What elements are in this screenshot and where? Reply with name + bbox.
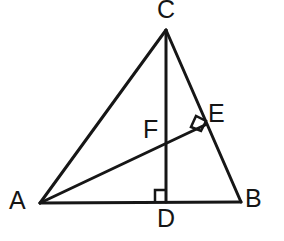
triangle-figure: [0, 0, 284, 241]
geometry-diagram: C A B D E F: [0, 0, 284, 241]
segment-cb: [166, 30, 241, 202]
vertex-label-b: B: [245, 186, 262, 211]
right-angle-mark-d: [155, 190, 166, 201]
vertex-label-c: C: [157, 0, 175, 22]
segment-ab: [40, 202, 241, 203]
vertex-label-f: F: [143, 117, 158, 142]
vertex-label-d: D: [157, 206, 175, 231]
vertex-label-a: A: [9, 188, 26, 213]
segment-ae-cevian: [40, 125, 205, 203]
vertex-label-e: E: [208, 101, 225, 126]
